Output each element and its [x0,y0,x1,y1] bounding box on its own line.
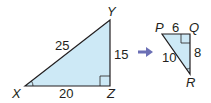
vertex-x-label: X [11,86,22,101]
triangle-xyz [25,20,110,86]
side-xz-label: 20 [59,86,73,101]
arrow-icon [138,47,153,57]
vertex-p-label: P [155,20,164,35]
similar-triangles-diagram: X Y Z 25 15 20 P Q R 6 8 10 [0,0,211,103]
side-xy-label: 25 [55,38,69,53]
side-qr-label: 8 [194,45,201,60]
side-pr-label: 10 [162,50,176,65]
side-pq-label: 6 [172,20,179,35]
side-yz-label: 15 [114,47,128,62]
vertex-z-label: Z [106,86,116,101]
vertex-y-label: Y [107,4,117,19]
vertex-q-label: Q [189,20,199,35]
vertex-r-label: R [186,75,195,90]
